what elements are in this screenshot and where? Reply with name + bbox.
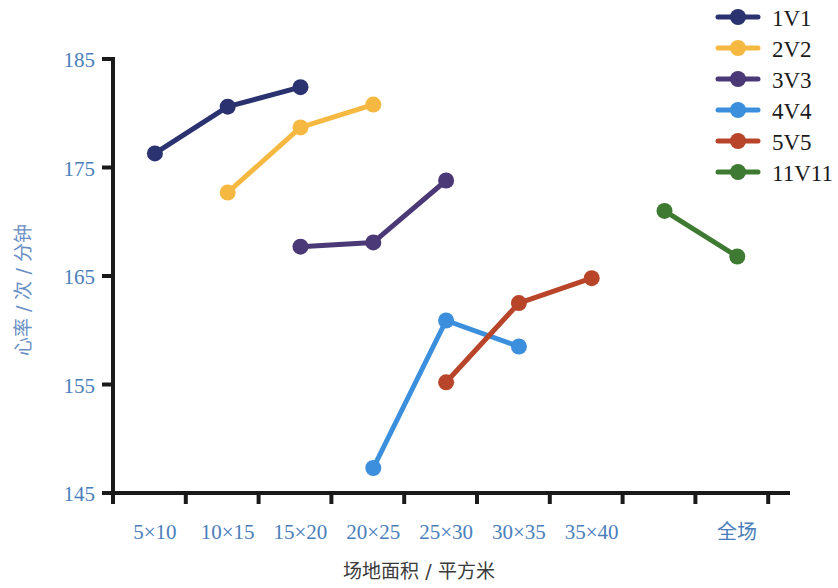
data-point — [365, 460, 381, 476]
legend-label: 11V11 — [772, 161, 833, 186]
legend-label: 4V4 — [772, 99, 812, 124]
y-tick-label: 175 — [64, 157, 96, 181]
x-tick-label: 20×25 — [346, 520, 400, 544]
legend-label: 5V5 — [772, 130, 812, 155]
data-point — [365, 234, 381, 250]
data-point — [729, 249, 745, 265]
legend-label: 2V2 — [772, 37, 812, 62]
y-tick-label: 185 — [64, 48, 96, 72]
data-point — [438, 313, 454, 329]
data-point — [584, 270, 600, 286]
data-point — [220, 185, 236, 201]
x-axis-title: 场地面积 / 平方米 — [343, 560, 494, 582]
data-point — [293, 239, 309, 255]
legend-swatch-marker — [730, 40, 746, 56]
data-point — [511, 339, 527, 355]
legend-swatch-marker — [730, 71, 746, 87]
data-point — [220, 99, 236, 115]
data-point — [438, 374, 454, 390]
data-point — [147, 145, 163, 161]
data-point — [365, 97, 381, 113]
y-tick-label: 155 — [64, 374, 96, 398]
data-point — [293, 119, 309, 135]
legend-label: 1V1 — [772, 6, 812, 31]
legend-label: 3V3 — [772, 68, 812, 93]
data-point — [293, 79, 309, 95]
y-tick-label: 145 — [64, 482, 96, 506]
x-tick-label: 10×15 — [201, 520, 255, 544]
line-chart: 185175165155145 5×1010×1515×2020×2525×30… — [0, 0, 838, 588]
x-tick-label: 35×40 — [565, 520, 619, 544]
legend-swatch-marker — [730, 9, 746, 25]
x-tick-label: 15×20 — [274, 520, 328, 544]
chart-background — [0, 0, 838, 588]
x-tick-label: 全场 — [717, 520, 757, 544]
x-tick-label: 30×35 — [492, 520, 546, 544]
y-tick-label: 165 — [64, 265, 96, 289]
chart-container: 185175165155145 5×1010×1515×2020×2525×30… — [0, 0, 838, 588]
legend-swatch-marker — [730, 102, 746, 118]
y-axis-title: 心率 / 次 / 分钟 — [12, 224, 34, 356]
data-point — [657, 203, 673, 219]
legend-swatch-marker — [730, 133, 746, 149]
x-tick-label: 5×10 — [133, 520, 176, 544]
data-point — [438, 173, 454, 189]
legend-swatch-marker — [730, 164, 746, 180]
x-tick-label: 25×30 — [419, 520, 473, 544]
data-point — [511, 295, 527, 311]
